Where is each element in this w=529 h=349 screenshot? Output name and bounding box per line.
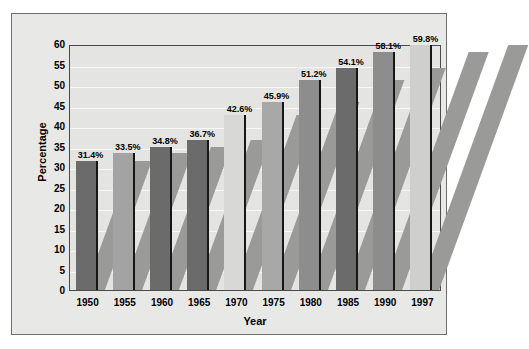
- bar: [224, 115, 244, 290]
- x-tick-label: 1975: [254, 297, 294, 308]
- bar-value-label: 54.1%: [331, 57, 371, 67]
- y-tick-label: 35: [31, 143, 65, 153]
- bar-body: [299, 80, 321, 290]
- bar-body: [336, 68, 358, 290]
- bar: [410, 45, 430, 290]
- x-axis-ticks: 1950195519601965197019751980198519901997: [69, 297, 441, 311]
- bar-body: [373, 52, 395, 290]
- bar: [113, 153, 133, 290]
- bar-value-label: 36.7%: [182, 129, 222, 139]
- x-tick-label: 1985: [328, 297, 368, 308]
- bar-body: [410, 45, 432, 290]
- x-tick-label: 1970: [216, 297, 256, 308]
- bar: [262, 102, 282, 290]
- bar-value-label: 31.4%: [71, 150, 111, 160]
- bar-body: [150, 147, 172, 290]
- bar: [336, 68, 356, 290]
- y-tick-label: 10: [31, 245, 65, 255]
- y-tick-label: 5: [31, 266, 65, 276]
- bar-body: [76, 161, 98, 290]
- y-tick-label: 25: [31, 184, 65, 194]
- plot-area: 31.4%33.5%34.8%36.7%42.6%45.9%51.2%54.1%…: [69, 45, 441, 291]
- bar: [187, 140, 207, 290]
- x-tick-label: 1960: [142, 297, 182, 308]
- bars-layer: 31.4%33.5%34.8%36.7%42.6%45.9%51.2%54.1%…: [70, 46, 440, 290]
- y-tick-label: 50: [31, 81, 65, 91]
- bar-value-label: 58.1%: [368, 41, 408, 51]
- bar-value-label: 34.8%: [145, 136, 185, 146]
- y-tick-label: 60: [31, 40, 65, 50]
- x-tick-label: 1950: [68, 297, 108, 308]
- y-tick-label: 40: [31, 122, 65, 132]
- y-tick-label: 30: [31, 163, 65, 173]
- x-axis-label: Year: [69, 315, 441, 327]
- y-tick-label: 0: [31, 286, 65, 296]
- y-axis-ticks: 605550454035302520151050: [29, 45, 65, 291]
- bar-value-label: 51.2%: [294, 69, 334, 79]
- y-tick-label: 55: [31, 61, 65, 71]
- bar-value-label: 59.8%: [405, 34, 445, 44]
- x-tick-label: 1997: [402, 297, 442, 308]
- bar-body: [113, 153, 135, 290]
- x-tick-label: 1965: [179, 297, 219, 308]
- x-tick-label: 1955: [105, 297, 145, 308]
- bar: [76, 161, 96, 290]
- bar-body: [262, 102, 284, 290]
- bar-body: [187, 140, 209, 290]
- y-tick-label: 20: [31, 204, 65, 214]
- bar-value-label: 33.5%: [108, 142, 148, 152]
- bar-value-label: 42.6%: [219, 104, 259, 114]
- bar: [150, 147, 170, 290]
- bar-body: [224, 115, 246, 290]
- figure-frame: Percentage 605550454035302520151050 31.4…: [11, 13, 447, 335]
- y-tick-label: 45: [31, 102, 65, 112]
- y-tick-label: 15: [31, 225, 65, 235]
- bar: [373, 52, 393, 290]
- x-tick-label: 1990: [365, 297, 405, 308]
- bar: [299, 80, 319, 290]
- x-tick-label: 1980: [291, 297, 331, 308]
- bar-value-label: 45.9%: [257, 91, 297, 101]
